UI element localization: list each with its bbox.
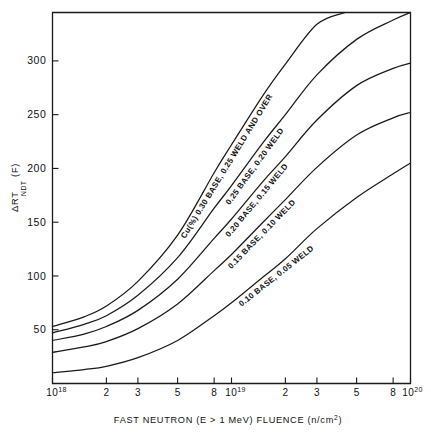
x-axis-title: FAST NEUTRON (E > 1 MeV) FLUENCE (n/cm2)	[114, 414, 342, 426]
y-axis-title: ΔRT NDT (F)	[10, 163, 27, 212]
x-tick-label: 8	[390, 387, 396, 398]
x-tick-label: 3	[135, 387, 141, 398]
x-tick-label: 2	[103, 387, 109, 398]
x-axis-title-text: FAST NEUTRON (E > 1 MeV) FLUENCE (n/cm2)	[114, 414, 342, 426]
y-axis-title-subscript: NDT	[20, 181, 27, 196]
x-tick-label: 1020	[402, 386, 423, 398]
x-tick-label: 8	[211, 387, 217, 398]
x-tick-label: 1018	[46, 386, 67, 398]
x-tick-label: 2	[282, 387, 288, 398]
x-axis-ticks: 10182358101923581020	[46, 378, 423, 398]
x-tick-label: 1019	[225, 386, 246, 398]
radiation-embrittlement-chart: 50100150200250300 10182358101923581020 C…	[0, 0, 431, 433]
x-tick-label: 5	[354, 387, 360, 398]
y-tick-label: 100	[27, 270, 46, 282]
data-curve	[53, 13, 411, 333]
x-tick-label: 5	[175, 387, 181, 398]
figure-page: 50100150200250300 10182358101923581020 C…	[0, 0, 431, 433]
curve-label: 0.15 BASE, 0.10 WELD	[226, 198, 297, 271]
data-curve	[53, 13, 345, 327]
y-axis-ticks: 50100150200250300	[27, 54, 58, 335]
x-axis-title-main: FAST NEUTRON (E > 1 MeV) FLUENCE (n/cm	[114, 415, 334, 425]
y-tick-label: 150	[27, 216, 46, 228]
y-tick-label: 50	[34, 323, 47, 335]
y-axis-title-unit: (F)	[10, 163, 20, 177]
y-axis-title-main: ΔRT	[10, 191, 20, 212]
x-tick-label: 3	[314, 387, 320, 398]
y-tick-label: 200	[27, 162, 46, 174]
y-tick-label: 250	[27, 108, 46, 120]
x-axis-title-tail: )	[338, 415, 342, 425]
y-tick-label: 300	[27, 54, 46, 66]
